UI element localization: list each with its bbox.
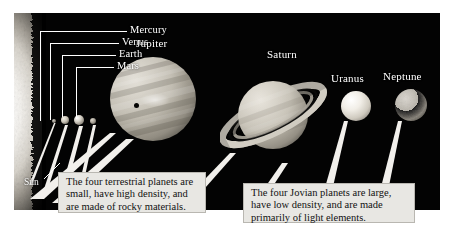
label-earth: Earth [119,48,142,59]
label-mars: Mars [117,60,139,71]
leader-mercury [40,31,127,121]
label-sun: Sun [24,177,39,187]
label-saturn: Saturn [267,48,297,60]
label-neptune: Neptune [383,70,422,82]
leader-earth [62,55,116,117]
label-mercury: Mercury [130,24,167,35]
caption-terrestrial-planets: The four terrestrial planets are small, … [58,172,206,213]
label-uranus: Uranus [331,72,364,84]
label-jupiter: Jupiter [136,37,167,49]
caption-jovian-planets: The four Jovian planets are large, have … [243,183,415,223]
solar-system-figure: Mercury Venus Earth Mars Jupiter Saturn … [0,0,454,236]
leader-mars [76,67,114,119]
